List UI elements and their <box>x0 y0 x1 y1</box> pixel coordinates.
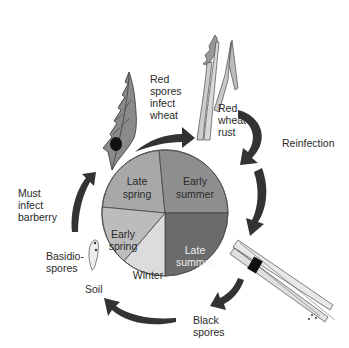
pie-label-early-spring-2: spring <box>109 240 138 252</box>
arrow-leaf-to-wheat <box>135 127 195 152</box>
pie-label-early-summer-1: Early <box>183 175 208 187</box>
arrow-to-black-spores <box>210 278 244 310</box>
season-pie-chart: Late spring Early summer Late summer Win… <box>102 150 228 281</box>
pie-label-late-summer-2: summer <box>176 256 214 268</box>
pie-label-late-spring-2: spring <box>123 188 152 200</box>
arrow-to-stem <box>246 168 266 236</box>
pie-label-early-spring-1: Early <box>111 228 136 240</box>
label-basidiospores: Basidio- spores <box>46 250 84 274</box>
label-black-spores: Black spores <box>193 314 225 338</box>
basidiospore-illustration <box>89 240 98 270</box>
arrow-to-barberry <box>72 172 96 232</box>
life-cycle-diagram: Late spring Early summer Late summer Win… <box>0 0 349 348</box>
label-reinfection: Reinfection <box>282 137 335 149</box>
pie-label-late-spring-1: Late <box>127 175 148 187</box>
pie-label-early-summer-2: summer <box>176 188 214 200</box>
pie-label-late-summer-1: Late <box>185 244 206 256</box>
label-red-spores-infect-wheat: Red spores infect wheat <box>150 73 182 121</box>
label-must-infect-barberry: Must infect barberry <box>18 187 57 223</box>
pie-label-winter: Winter <box>133 269 164 281</box>
barberry-leaf-illustration <box>103 72 136 170</box>
label-soil: Soil <box>85 283 103 295</box>
wheat-stem-illustration <box>230 240 335 322</box>
arrow-black-spores-to-soil <box>104 298 176 324</box>
label-red-wheat-rust: Red wheat rust <box>218 102 246 138</box>
